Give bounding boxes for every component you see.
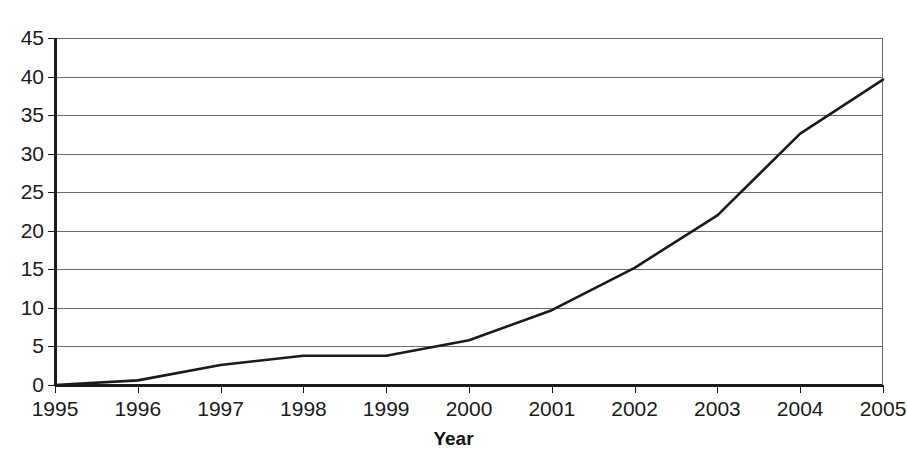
- y-tick-label: 0: [0, 374, 44, 395]
- x-tick-label: 2004: [755, 398, 845, 419]
- y-tick-label: 40: [0, 66, 44, 87]
- x-axis-title: Year: [0, 428, 907, 450]
- x-tick-label: 2005: [838, 398, 907, 419]
- x-tick-label: 2001: [507, 398, 597, 419]
- y-tick-label: 30: [0, 143, 44, 164]
- y-tick-label: 45: [0, 27, 44, 48]
- x-tick-label: 1997: [176, 398, 266, 419]
- x-tick-label: 1999: [341, 398, 431, 419]
- x-tick-label: 1995: [10, 398, 100, 419]
- x-tick-label: 1996: [93, 398, 183, 419]
- x-tick-label: 2000: [424, 398, 514, 419]
- y-tick-label: 5: [0, 335, 44, 356]
- x-tick-label: 2002: [590, 398, 680, 419]
- y-tick-label: 20: [0, 220, 44, 241]
- x-tick-label: 1998: [258, 398, 348, 419]
- line-chart: 051015202530354045 199519961997199819992…: [0, 0, 907, 470]
- x-tick-label: 2003: [672, 398, 762, 419]
- y-tick-label: 25: [0, 181, 44, 202]
- y-tick-label: 15: [0, 258, 44, 279]
- y-tick-label: 35: [0, 104, 44, 125]
- y-tick-label: 10: [0, 297, 44, 318]
